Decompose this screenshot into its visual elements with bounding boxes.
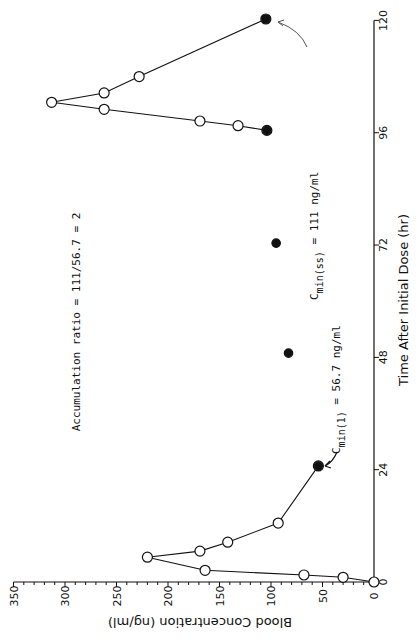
- accumulation-ratio-annotation: Accumulation ratio = 111/56.7 = 2: [70, 213, 83, 432]
- open-data-point: [233, 121, 243, 131]
- open-data-point: [273, 518, 283, 528]
- filled-data-point: [284, 349, 292, 357]
- x-axis-label: Time After Initial Dose (hr): [396, 214, 411, 387]
- open-data-point: [338, 572, 348, 582]
- cmin1-annotation: Cmin(1) = 56.7 ng/ml: [330, 325, 347, 454]
- svg-text:Cmin(ss) = 111 ng/ml: Cmin(ss) = 111 ng/ml: [308, 172, 325, 300]
- time-tick-label: 0: [377, 579, 390, 586]
- filled-data-point: [262, 15, 270, 23]
- data-lines: [52, 19, 374, 582]
- time-tick-label: 24: [377, 463, 390, 477]
- filled-data-point: [272, 239, 280, 247]
- concentration-tick-label: 300: [59, 586, 72, 607]
- plot-area: [14, 14, 380, 587]
- chart-figure: 024487296120050100150200250300350 Time A…: [0, 0, 419, 641]
- series-line: [52, 19, 267, 130]
- time-tick-label: 72: [377, 238, 390, 252]
- cminss-rest: = 111 ng/ml: [308, 172, 321, 251]
- open-data-point: [47, 97, 57, 107]
- open-data-point: [223, 537, 233, 547]
- series-line: [147, 466, 374, 582]
- filled-data-point: [314, 462, 322, 470]
- open-data-point: [200, 565, 210, 575]
- data-points: [47, 14, 379, 587]
- concentration-tick-label: 100: [265, 586, 278, 607]
- concentration-tick-label: 350: [8, 586, 21, 607]
- concentration-tick-label: 50: [317, 589, 330, 603]
- open-data-point: [299, 570, 309, 580]
- concentration-tick-label: 200: [162, 586, 175, 607]
- svg-text:Cmin(1) = 56.7 ng/ml: Cmin(1) = 56.7 ng/ml: [330, 325, 347, 454]
- concentration-tick-label: 0: [368, 593, 381, 600]
- open-data-point: [99, 104, 109, 114]
- concentration-tick-label: 250: [111, 586, 124, 607]
- open-data-point: [195, 546, 205, 556]
- open-data-point: [134, 72, 144, 82]
- open-data-point: [142, 552, 152, 562]
- time-tick-label: 120: [377, 10, 390, 31]
- time-tick-label: 48: [377, 350, 390, 364]
- filled-data-point: [263, 126, 271, 134]
- time-tick-label: 96: [377, 126, 390, 140]
- cminss-annotation: Cmin(ss) = 111 ng/ml: [308, 172, 325, 300]
- cmin1-sub: min(1): [336, 411, 347, 447]
- open-data-point: [99, 88, 109, 98]
- chart-svg: 024487296120050100150200250300350 Time A…: [0, 0, 419, 641]
- cmin1-rest: = 56.7 ng/ml: [330, 325, 343, 411]
- concentration-tick-label: 150: [214, 586, 227, 607]
- axes: [14, 20, 380, 587]
- open-data-point: [195, 116, 205, 126]
- cminss-main: C: [308, 293, 321, 300]
- cminss-sub: min(ss): [314, 251, 325, 293]
- y-axis-label: Blood Concentration (ng/ml): [108, 615, 292, 630]
